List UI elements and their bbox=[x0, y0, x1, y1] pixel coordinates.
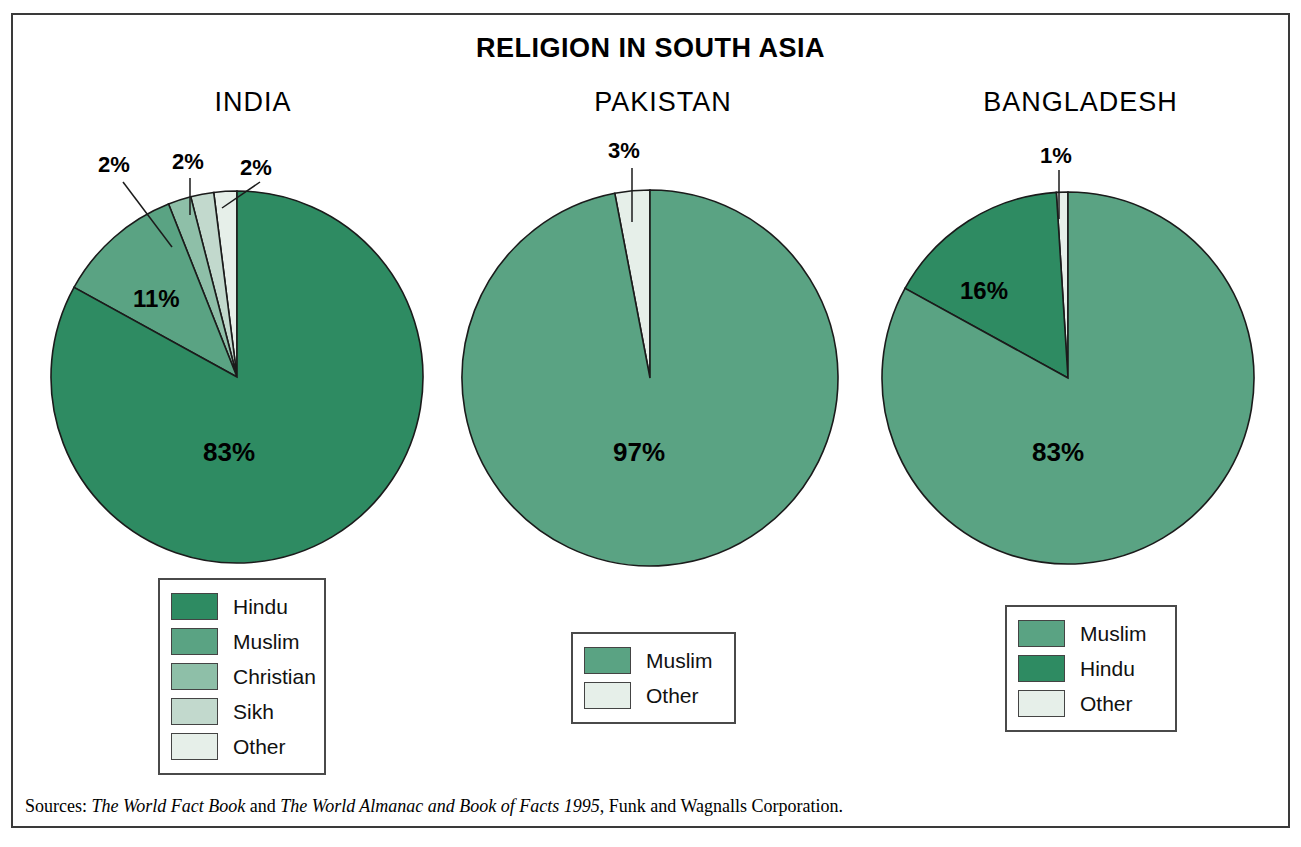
legend-swatch bbox=[1018, 620, 1065, 647]
legend-item[interactable]: Sikh bbox=[171, 694, 310, 729]
legend-item[interactable]: Hindu bbox=[171, 589, 310, 624]
legend-label: Muslim bbox=[233, 630, 300, 654]
sources-work-1: The World Fact Book bbox=[92, 796, 246, 816]
legend-swatch bbox=[171, 628, 218, 655]
sources-conjunction: and bbox=[245, 796, 280, 816]
legend-item[interactable]: Other bbox=[584, 678, 720, 713]
legend-item[interactable]: Muslim bbox=[1018, 616, 1161, 651]
legend-bangladesh: Muslim Hindu Other bbox=[1005, 605, 1177, 732]
legend-item[interactable]: Christian bbox=[171, 659, 310, 694]
legend-item[interactable]: Muslim bbox=[171, 624, 310, 659]
legend-swatch bbox=[1018, 655, 1065, 682]
slice-label-bangladesh-muslim: 83% bbox=[1032, 437, 1084, 468]
slice-label-bangladesh-hindu: 16% bbox=[960, 277, 1008, 305]
legend-swatch bbox=[584, 682, 631, 709]
slice-label-india-hindu: 83% bbox=[203, 437, 255, 468]
page-title: RELIGION IN SOUTH ASIA bbox=[13, 33, 1288, 64]
legend-swatch bbox=[1018, 690, 1065, 717]
legend-item[interactable]: Muslim bbox=[584, 643, 720, 678]
legend-item[interactable]: Other bbox=[1018, 686, 1161, 721]
legend-swatch bbox=[171, 593, 218, 620]
legend-swatch bbox=[171, 663, 218, 690]
callout-bangladesh-other: 1% bbox=[1040, 143, 1072, 169]
legend-label: Christian bbox=[233, 665, 316, 689]
legend-item[interactable]: Other bbox=[171, 729, 310, 764]
legend-label: Hindu bbox=[1080, 657, 1135, 681]
callout-pakistan-other: 3% bbox=[608, 138, 640, 164]
chart-title-india: INDIA bbox=[123, 87, 383, 118]
legend-swatch bbox=[171, 733, 218, 760]
legend-pakistan: Muslim Other bbox=[571, 632, 736, 724]
legend-label: Other bbox=[646, 684, 699, 708]
legend-item[interactable]: Hindu bbox=[1018, 651, 1161, 686]
legend-india: Hindu Muslim Christian Sikh Other bbox=[158, 578, 326, 775]
legend-label: Muslim bbox=[646, 649, 713, 673]
legend-swatch bbox=[171, 698, 218, 725]
callout-india-sikh: 2% bbox=[172, 149, 204, 175]
sources-prefix: Sources: bbox=[25, 796, 92, 816]
legend-label: Muslim bbox=[1080, 622, 1147, 646]
sources-work-2: The World Almanac and Book of Facts 1995 bbox=[280, 796, 599, 816]
sources-suffix: , Funk and Wagnalls Corporation. bbox=[600, 796, 843, 816]
legend-label: Hindu bbox=[233, 595, 288, 619]
legend-swatch bbox=[584, 647, 631, 674]
legend-label: Other bbox=[1080, 692, 1133, 716]
callout-india-other: 2% bbox=[240, 155, 272, 181]
sources-note: Sources: The World Fact Book and The Wor… bbox=[25, 796, 843, 817]
legend-label: Other bbox=[233, 735, 286, 759]
chart-title-pakistan: PAKISTAN bbox=[533, 87, 793, 118]
legend-label: Sikh bbox=[233, 700, 274, 724]
slice-label-india-muslim: 11% bbox=[133, 285, 180, 313]
chart-title-bangladesh: BANGLADESH bbox=[948, 87, 1213, 118]
slice-label-pakistan-muslim: 97% bbox=[613, 437, 665, 468]
callout-india-christian: 2% bbox=[98, 152, 130, 178]
